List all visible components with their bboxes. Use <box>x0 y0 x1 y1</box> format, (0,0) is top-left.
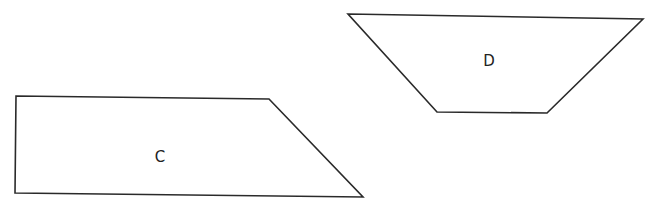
shape-d: D <box>348 14 643 113</box>
diagram-canvas: C D <box>0 0 650 209</box>
shape-c-outline <box>15 96 363 197</box>
shape-c: C <box>15 96 363 197</box>
shape-c-label: C <box>155 148 165 166</box>
shape-d-outline <box>348 14 643 113</box>
shape-d-label: D <box>483 52 495 70</box>
shapes-diagram: C D <box>0 0 650 209</box>
